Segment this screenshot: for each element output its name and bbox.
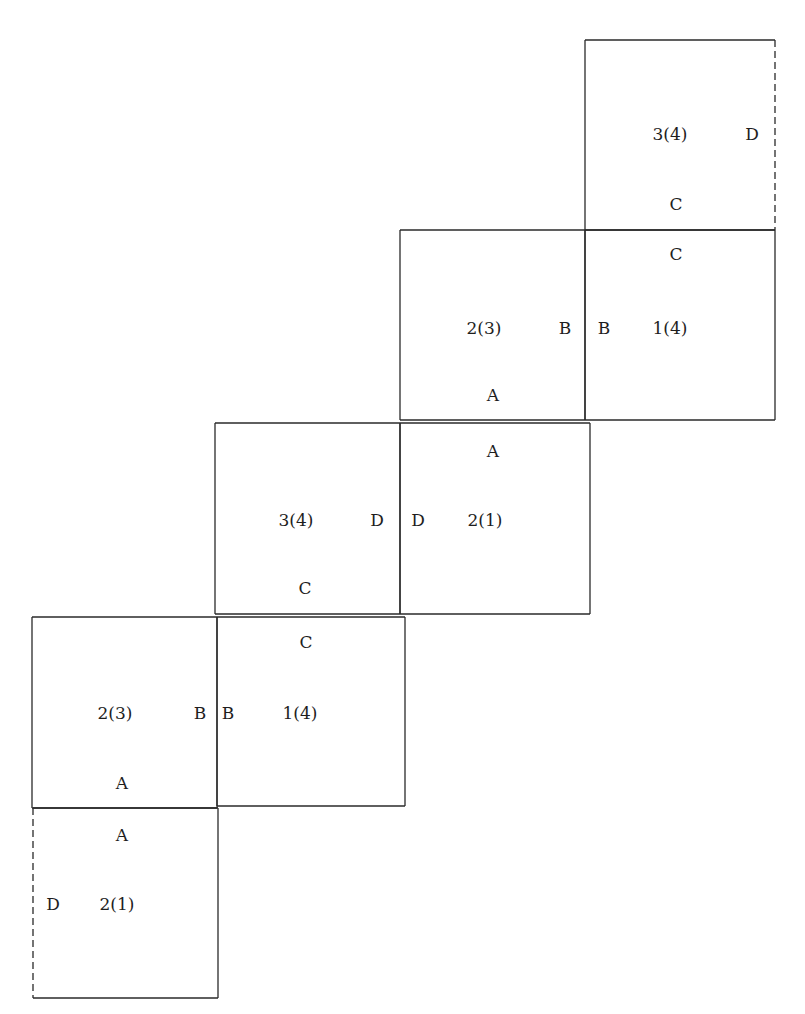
face-label: 2(1) <box>468 512 503 529</box>
edge-label: D <box>370 512 384 529</box>
edge-label: B <box>222 705 235 722</box>
edge-label: C <box>669 196 682 213</box>
edge-label: B <box>194 705 207 722</box>
face-label: 2(3) <box>467 320 502 337</box>
edge-label: C <box>298 580 311 597</box>
face-label: 2(3) <box>98 705 133 722</box>
edge-label: A <box>116 775 128 792</box>
edge-label: A <box>487 387 499 404</box>
edge-label: D <box>411 512 425 529</box>
edge-label: C <box>669 246 682 263</box>
face-label: 3(4) <box>279 512 314 529</box>
face-label: 1(4) <box>283 705 318 722</box>
edge-label: A <box>487 443 499 460</box>
net-diagram <box>0 0 805 1014</box>
edge-label: B <box>559 320 572 337</box>
face-label: 1(4) <box>653 320 688 337</box>
edge-label: D <box>745 126 759 143</box>
face-label: 2(1) <box>100 896 135 913</box>
edge-label: C <box>299 634 312 651</box>
edge-label: D <box>46 896 60 913</box>
edge-label: A <box>116 827 128 844</box>
square-faces <box>32 40 775 998</box>
face-label: 3(4) <box>653 126 688 143</box>
edge-label: B <box>598 320 611 337</box>
